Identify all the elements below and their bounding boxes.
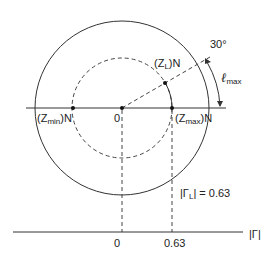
zmax-label: (Zmax)N bbox=[175, 113, 212, 126]
gamma-axis-label: |Γ| bbox=[249, 229, 261, 240]
zl-point bbox=[163, 81, 167, 85]
tick-label-063: 0.63 bbox=[164, 238, 185, 249]
zmax-point bbox=[170, 106, 174, 110]
angle-label: 30° bbox=[210, 39, 227, 50]
rotation-arc bbox=[165, 83, 172, 108]
zmin-label: (Zmin)N bbox=[37, 113, 72, 126]
zl-label: (ZL)N bbox=[154, 58, 180, 71]
gamma-l-label: |ΓL| = 0.63 bbox=[180, 188, 230, 201]
tick-label-zero: 0 bbox=[114, 238, 120, 249]
arrow-head-bottom bbox=[217, 101, 223, 107]
center-label: 0 bbox=[114, 113, 120, 124]
lmax-label: ℓmax bbox=[221, 71, 242, 86]
zmin-point bbox=[71, 106, 75, 110]
center-point bbox=[120, 106, 124, 110]
smith-chart-diagram bbox=[0, 0, 274, 260]
